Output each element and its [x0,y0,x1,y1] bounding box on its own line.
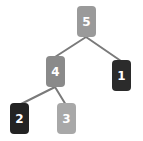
tree-node-4-label: 4 [51,66,59,78]
binary-tree-diagram: 5 4 1 2 3 [0,0,143,141]
tree-node-1-label: 1 [117,70,125,82]
tree-node-1[interactable]: 1 [112,60,131,91]
tree-node-3-label: 3 [62,113,70,125]
edge-5-to-4 [55,37,86,57]
tree-node-2[interactable]: 2 [10,103,29,134]
tree-node-3[interactable]: 3 [57,103,76,134]
tree-node-2-label: 2 [15,113,23,125]
tree-node-5[interactable]: 5 [77,6,96,37]
edge-5-to-1 [86,37,121,61]
tree-node-4[interactable]: 4 [46,56,65,87]
tree-node-5-label: 5 [82,16,90,28]
